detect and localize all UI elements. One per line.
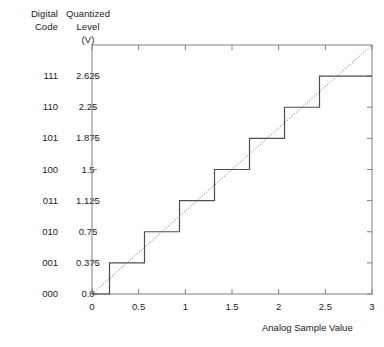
plot-svg (0, 0, 384, 347)
quantizer-staircase-line (92, 76, 372, 294)
x-axis-title: Analog Sample Value (262, 322, 353, 333)
quantization-chart-figure: Digital Code Quantized Level (V) 1112.62… (0, 0, 384, 347)
